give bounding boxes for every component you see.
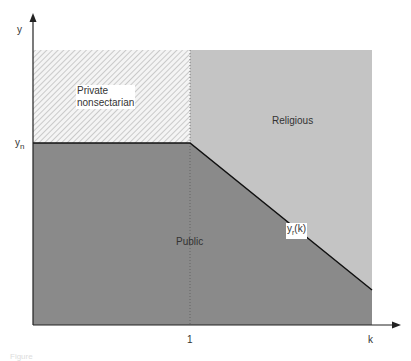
- y-n-tick-sub: n: [20, 142, 24, 151]
- private-label-line1: Private: [77, 85, 134, 97]
- private-nonsectarian-label: Private nonsectarian: [76, 85, 135, 109]
- curve-label-arg: (k): [294, 223, 306, 234]
- y-axis-label: y: [17, 24, 22, 36]
- figure-caption: Figure: [10, 352, 33, 361]
- private-label-line2: nonsectarian: [77, 97, 134, 109]
- y-axis-arrow-icon: [30, 13, 37, 22]
- x-axis-label: k: [368, 334, 373, 346]
- x-tick-1-label: 1: [187, 334, 193, 346]
- public-label: Public: [176, 236, 203, 248]
- x-axis-arrow-icon: [392, 322, 401, 329]
- y-n-tick-label: yn: [15, 137, 24, 153]
- curve-label: yr(k): [286, 223, 307, 239]
- religious-label: Religious: [272, 115, 313, 127]
